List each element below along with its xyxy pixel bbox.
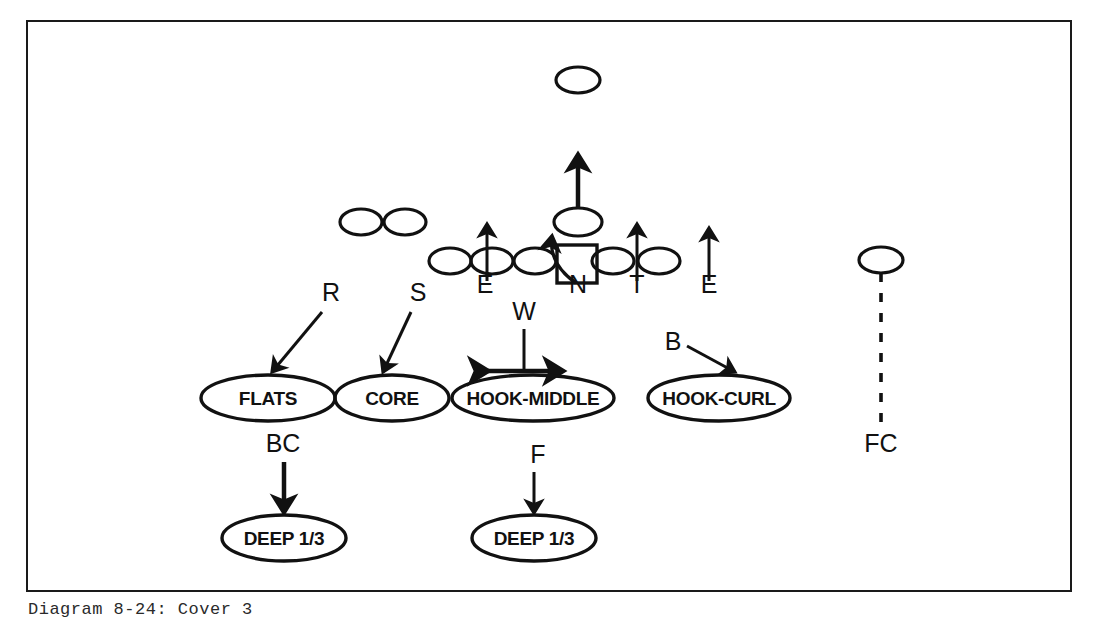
r-linebacker-drop-arrow: [272, 312, 322, 372]
zone-label-deep-third-left: DEEP 1/3: [244, 528, 325, 549]
position-label-r-linebacker: R: [322, 278, 340, 306]
offense-deep-back: [556, 67, 600, 93]
position-label-end-right: E: [701, 270, 718, 298]
position-label-free-safety: F: [530, 440, 545, 468]
position-label-bc-corner: BC: [266, 429, 301, 457]
position-label-fc-corner: FC: [864, 429, 897, 457]
position-label-b-linebacker: B: [665, 327, 682, 355]
b-linebacker-drop-arrow: [687, 346, 735, 372]
offense-receiver-split-right: [859, 247, 903, 273]
position-label-s-linebacker: S: [410, 278, 427, 306]
zone-label-core: CORE: [365, 388, 419, 409]
play-diagram-canvas: FLATS CORE HOOK-MIDDLE HOOK-CURL DEEP 1/…: [0, 0, 1096, 621]
position-label-nose: N: [569, 270, 587, 298]
s-linebacker-drop-arrow: [383, 312, 411, 372]
zone-label-hook-middle: HOOK-MIDDLE: [467, 388, 600, 409]
zone-label-hook-curl: HOOK-CURL: [662, 388, 776, 409]
zone-label-flats: FLATS: [239, 388, 297, 409]
offense-lineman-3: [514, 248, 556, 274]
offense-receiver-split-left-outer: [340, 209, 382, 235]
position-label-w-linebacker: W: [512, 297, 536, 325]
position-label-tackle: T: [629, 270, 644, 298]
offense-lineman-1: [429, 248, 471, 274]
offense-receiver-split-left-inner: [384, 209, 426, 235]
zone-label-deep-third-middle: DEEP 1/3: [494, 528, 575, 549]
figure-caption: Diagram 8-24: Cover 3: [28, 598, 728, 621]
diagram-page: FLATS CORE HOOK-MIDDLE HOOK-CURL DEEP 1/…: [0, 0, 1096, 621]
offense-quarterback: [554, 208, 602, 236]
position-label-end-left: E: [477, 270, 494, 298]
